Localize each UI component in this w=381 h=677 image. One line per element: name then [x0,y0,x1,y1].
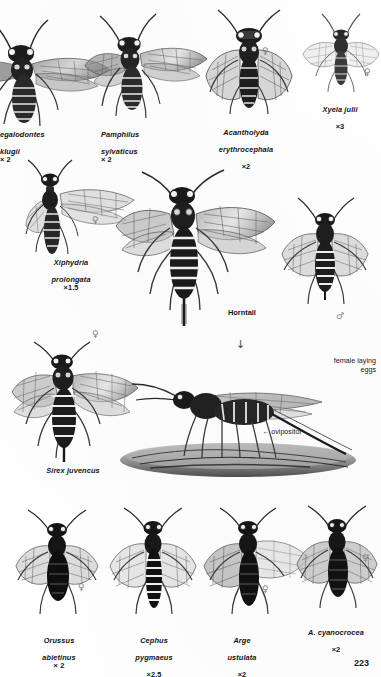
annotation-line2: eggs [360,365,376,374]
species-name: Pamphilus [101,130,139,139]
species-name: Acantholyda [223,128,268,137]
magnification: ×2 [238,670,247,677]
magnification: ×2 [332,645,341,654]
page-number: 223 [354,658,369,668]
female-symbol-arge-cyanocrocea: ♀ [362,554,369,563]
species-name: A. cyanocrocea [308,628,364,637]
species-name-line2: ustulata [227,653,256,662]
caption-orussus-abietinus: Orussus abietinus × 2 [4,628,114,671]
species-name: Xyela julii [322,105,357,114]
illustration-xyela-julii [300,12,381,97]
species-name: Orussus [44,636,75,645]
species-name: Arge [233,636,250,645]
caption-xyela-julii: Xyela julii ×3 [296,97,381,131]
species-name: egalodontes [0,130,45,139]
arrow-down-icon: ↓ [236,339,245,350]
caption-acantholyda-erythrocephala: Acantholyda erythrocephala ×2 [192,120,300,172]
illustration-pamphilus-sylvaticus [84,12,209,124]
species-name-line2: erythrocephala [219,145,273,154]
female-symbol-sirex: ♀ [92,330,99,339]
annotation-ovipositor: ← ovipositor [262,427,302,436]
species-name: Xiphydria [54,258,89,267]
male-symbol-horntail: ♂ [336,312,344,321]
annotation-line1: female laying [334,356,376,365]
caption-arge-cyanocrocea: A. cyanocrocea ×2 [288,620,381,654]
illustration-female-laying-eggs [110,372,375,482]
caption-cephus-pygmaeus: Cephus pygmaeus ×2.5 [104,628,204,677]
species-name-line2: pygmaeus [135,653,172,662]
magnification: ×3 [336,122,345,131]
annotation-female-laying-eggs: female laying eggs [268,356,376,374]
illustration-orussus-abietinus [8,508,113,618]
female-symbol-acantholyda: ♀ [262,47,269,56]
book-page: egalodontes klugii × 2 [0,0,381,677]
caption-pamphilus-sylvaticus: Pamphilus sylvaticus × 2 [101,122,193,165]
label-horntail: Horntail [228,308,256,317]
species-name: Sirex juvencus [46,466,100,475]
female-symbol-orussus: ♀ [78,583,85,592]
species-name: Cephus [140,636,168,645]
ovipositor-label: ovipositor [271,427,302,436]
caption-megalodontes-klugii: egalodontes klugii × 2 [0,122,90,165]
magnification: ×1.5 [64,283,79,292]
magnification: ×2.5 [147,670,162,677]
illustration-acantholyda-erythrocephala [196,8,306,120]
magnification: × 2 [54,661,65,670]
female-symbol-arge-ustulata: ♀ [262,585,269,594]
magnification: × 2 [0,155,11,164]
arrow-left-icon: ← [262,427,269,436]
caption-arge-ustulata: Arge ustulata ×2 [194,628,290,677]
illustration-cephus-pygmaeus [104,506,209,618]
illustration-horntail-male [274,196,381,308]
female-symbol-xiphydria: ♀ [92,216,99,225]
female-symbol-xyela: ♀ [364,68,371,77]
